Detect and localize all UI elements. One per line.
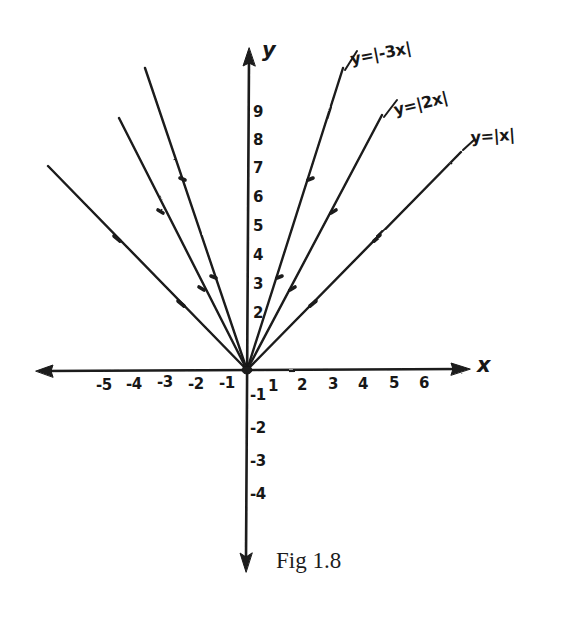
x-tick-label-4: 4: [358, 377, 368, 392]
x-tick-label-neg5: -5: [96, 378, 112, 393]
origin-ink-blob: [242, 366, 252, 374]
y-tick-label-5: 5: [253, 219, 263, 234]
x-axis-left-arrow: [36, 365, 53, 377]
x-tick-label-neg2: -2: [188, 377, 204, 392]
x-tick-label-1: 1: [268, 379, 278, 394]
y-tick-label-2: 2: [253, 306, 263, 321]
y-tick-label-neg3: -3: [250, 454, 266, 469]
x-tick-label-neg1: -1: [219, 376, 235, 391]
x-tick-label-neg4: -4: [126, 377, 142, 392]
x-axis-label: x: [477, 355, 491, 376]
y-tick-label-neg1: -1: [250, 388, 266, 403]
figure-container: y x 9 8 7 6 5 4 3 2 -1 -2 -3 -4 -5 -4 -3…: [0, 0, 580, 623]
graph-canvas: [0, 0, 580, 623]
y-axis-label: y: [262, 40, 276, 61]
x-tick-label-5: 5: [389, 376, 399, 391]
y-tick-label-4: 4: [253, 248, 263, 263]
curve-label-abs-x: y=|x|: [470, 127, 515, 146]
figure-caption: Fig 1.8: [276, 548, 341, 574]
y-axis-top-arrow: [243, 48, 255, 66]
x-tick-label-neg3: -3: [157, 375, 173, 390]
y-tick-label-neg4: -4: [250, 487, 266, 502]
curve-abs-neg3x: [145, 68, 343, 370]
x-tick-label-2: 2: [297, 378, 307, 393]
y-tick-label-6: 6: [253, 190, 263, 205]
y-tick-label-8: 8: [253, 133, 263, 148]
y-tick-label-7: 7: [253, 161, 263, 176]
curve-abs-2x: [119, 115, 382, 370]
y-tick-label-neg2: -2: [250, 421, 266, 436]
x-tick-label-3: 3: [328, 377, 338, 392]
y-tick-label-9: 9: [253, 105, 263, 120]
x-axis-right-arrow: [451, 363, 470, 375]
x-tick-label-6: 6: [419, 376, 429, 391]
y-tick-label-3: 3: [253, 277, 263, 292]
